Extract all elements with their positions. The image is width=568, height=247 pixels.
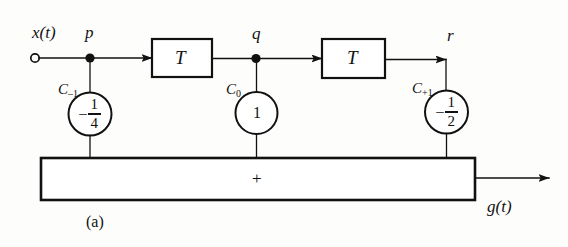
figure-caption: (a) <box>86 214 104 230</box>
coefficient-value-minus-1-denominator: 4 <box>90 116 100 131</box>
tap-label-q: q <box>252 25 261 42</box>
coefficient-label-minus-1: C–1 <box>58 82 78 97</box>
figure-transversal-filter: x(t) p q r T T C–1 C0 C+1 – 1 4 1 – 1 2 … <box>0 0 568 247</box>
coefficient-label-plus-1: C+1 <box>412 81 433 96</box>
output-signal-label: g(t) <box>487 198 512 215</box>
coefficient-label-zero-name: C <box>226 81 236 97</box>
summer-plus-symbol: + <box>252 170 262 187</box>
coefficient-value-minus-1-sign: – <box>79 105 88 122</box>
coefficient-value-plus-1-fraction: 1 2 <box>445 95 458 129</box>
input-signal-label: x(t) <box>32 24 56 41</box>
coefficient-value-plus-1: – 1 2 <box>423 95 471 129</box>
coefficient-value-minus-1: – 1 4 <box>66 97 114 131</box>
delay-block-2-label: T <box>347 48 358 67</box>
coefficient-value-zero: 1 <box>233 97 281 129</box>
delay-block-1-label: T <box>175 48 186 67</box>
tap-label-p: p <box>85 24 94 41</box>
coefficient-label-plus-1-name: C <box>412 80 422 96</box>
input-terminal-icon <box>31 54 39 62</box>
coefficient-value-plus-1-sign: – <box>436 103 445 120</box>
coefficient-value-plus-1-denominator: 2 <box>447 114 457 129</box>
coefficient-label-zero: C0 <box>226 82 241 97</box>
tap-label-r: r <box>447 27 454 44</box>
coefficient-value-plus-1-numerator: 1 <box>447 95 457 110</box>
coefficient-label-minus-1-name: C <box>58 81 68 97</box>
coefficient-value-minus-1-fraction: 1 4 <box>88 97 101 131</box>
coefficient-value-zero-text: 1 <box>253 104 261 122</box>
coefficient-value-minus-1-numerator: 1 <box>90 97 100 112</box>
